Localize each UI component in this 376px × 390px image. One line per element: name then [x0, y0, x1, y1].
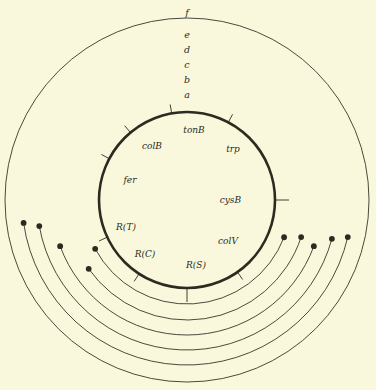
arc-d-endpoint-end	[329, 236, 335, 242]
gene-label-colV: colV	[218, 236, 239, 246]
gene-label-colB: colB	[142, 141, 162, 151]
gene-label-R(C): R(C)	[134, 249, 156, 259]
gene-label-tonB: tonB	[183, 125, 205, 135]
gene-label-trp: trp	[226, 144, 240, 154]
circular-genetic-map: colBtonBtrpfercysBR(T)R(C)R(S)colV abcde…	[0, 0, 376, 390]
gene-label-cysB: cysB	[220, 195, 242, 205]
arc-label-c: c	[184, 59, 190, 70]
arc-e-endpoint-end	[345, 234, 351, 240]
arc-label-d: d	[184, 44, 190, 55]
arc-e-endpoint-start	[21, 220, 27, 226]
arc-a-endpoint-start	[92, 246, 98, 252]
arc-label-e: e	[184, 29, 190, 40]
arc-label-a: a	[184, 89, 190, 100]
gene-label-R(T): R(T)	[115, 222, 136, 232]
arc-b-endpoint-start	[86, 266, 92, 272]
arc-a-endpoint-end	[281, 234, 287, 240]
gene-label-fer: fer	[123, 175, 138, 185]
arc-label-b: b	[184, 74, 190, 85]
arc-c-endpoint-end	[311, 243, 317, 249]
arc-d-endpoint-start	[36, 223, 42, 229]
arc-c-endpoint-start	[57, 243, 63, 249]
gene-label-R(S): R(S)	[185, 260, 206, 270]
arc-b-endpoint-end	[298, 234, 304, 240]
